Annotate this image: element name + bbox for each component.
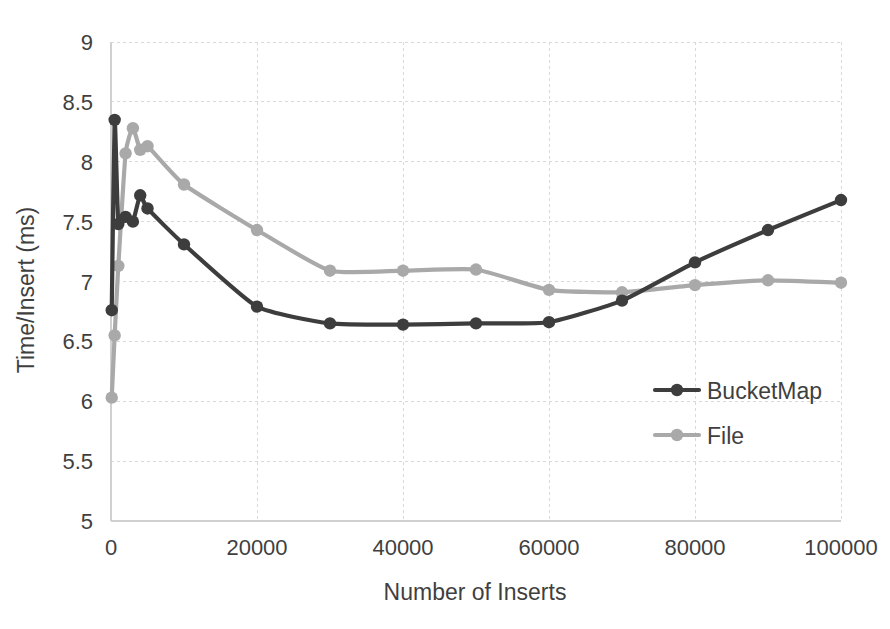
x-tick-label: 20000 [226,535,287,560]
data-point [106,304,118,316]
x-tick-label: 80000 [664,535,725,560]
legend-label: BucketMap [707,378,822,404]
data-point [141,140,153,152]
y-tick-label: 5.5 [62,449,93,474]
data-point [134,189,146,201]
data-point [178,238,190,250]
data-point [178,178,190,190]
data-point [141,202,153,214]
y-tick-label: 9 [81,30,93,55]
y-tick-label: 7.5 [62,210,93,235]
series-file [106,122,848,404]
x-tick-label: 40000 [372,535,433,560]
line-chart: 55.566.577.588.59 0200004000060000800001… [0,0,890,629]
legend-marker-icon [671,429,683,441]
data-point [108,114,120,126]
data-point [397,265,409,277]
data-series [106,114,848,404]
y-tick-label: 8.5 [62,90,93,115]
y-axis-tick-labels: 55.566.577.588.59 [62,30,93,534]
data-point [108,329,120,341]
series-line-file [112,128,841,397]
legend-marker-icon [671,384,683,396]
data-point [835,194,847,206]
chart-container: 55.566.577.588.59 0200004000060000800001… [0,0,890,629]
data-point [397,318,409,330]
data-point [251,300,263,312]
data-point [324,265,336,277]
x-axis-title: Number of Inserts [384,579,567,605]
legend-entry-file[interactable]: File [655,423,744,449]
x-tick-label: 60000 [518,535,579,560]
data-point [470,263,482,275]
data-point [106,391,118,403]
data-point [543,284,555,296]
data-point [119,147,131,159]
y-tick-label: 6.5 [62,329,93,354]
y-tick-label: 5 [81,509,93,534]
data-point [127,122,139,134]
data-point [762,274,774,286]
data-point [470,317,482,329]
series-bucketmap [106,114,848,331]
y-axis-title: Time/Insert (ms) [13,207,39,374]
x-tick-label: 0 [105,535,117,560]
x-axis-tick-labels: 020000400006000080000100000 [105,535,878,560]
data-point [616,294,628,306]
data-point [762,224,774,236]
data-point [127,215,139,227]
chart-legend: BucketMapFile [655,378,822,449]
x-tick-label: 100000 [804,535,877,560]
data-point [543,316,555,328]
y-tick-label: 8 [81,150,93,175]
y-tick-label: 7 [81,270,93,295]
data-point [689,256,701,268]
legend-entry-bucketmap[interactable]: BucketMap [655,378,822,404]
y-tick-label: 6 [81,389,93,414]
data-point [251,224,263,236]
data-point [324,317,336,329]
data-point [835,277,847,289]
legend-label: File [707,423,744,449]
data-point [689,279,701,291]
